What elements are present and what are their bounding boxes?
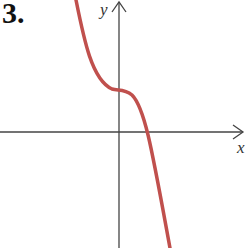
graph: x y [0, 0, 252, 248]
function-curve [76, 0, 170, 248]
y-axis-label: y [98, 0, 108, 19]
x-axis-label: x [236, 138, 245, 157]
